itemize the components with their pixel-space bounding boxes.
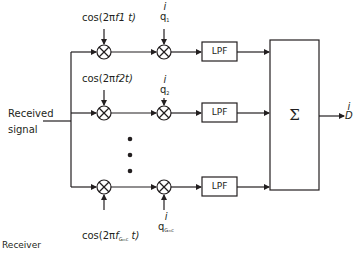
output-label: i D (345, 102, 353, 120)
carrier-label-1: cos(2πf1 t) (82, 12, 136, 23)
code-label-1: i q1 (160, 2, 170, 25)
input-label-line2: signal (8, 124, 54, 135)
code-label-2: i q2 (160, 75, 170, 98)
ellipsis-dots (128, 137, 133, 174)
lpf-block-2: LPF (202, 107, 237, 117)
code-label-3: i qGₘc (158, 212, 174, 235)
diagram-title: Receiver (2, 240, 41, 251)
carrier-label-2: cos(2πf2t) (82, 73, 133, 84)
block-diagram (0, 0, 357, 255)
summer-block: Σ (270, 107, 319, 123)
lpf-block-3: LPF (202, 181, 237, 191)
carrier-label-3: cos(2πfGₘc t) (82, 230, 139, 245)
lpf-block-1: LPF (202, 46, 237, 56)
input-label: Received signal (8, 108, 54, 135)
input-label-line1: Received (8, 108, 54, 119)
